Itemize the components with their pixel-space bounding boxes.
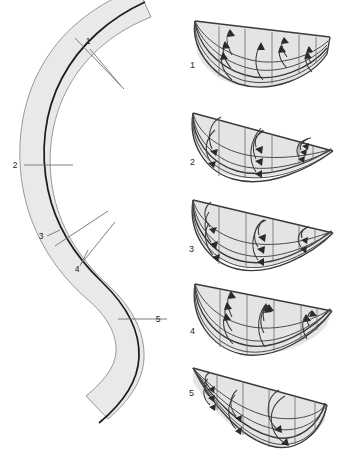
section-label-2: 2 — [190, 157, 195, 167]
cross-section-panel-3: 3 — [175, 190, 347, 282]
plan-label-2: 2 — [13, 160, 18, 170]
section-body-2 — [192, 113, 333, 182]
plan-label-3: 3 — [39, 231, 44, 241]
plan-label-1: 1 — [86, 36, 91, 46]
tick-line-4 — [81, 222, 115, 264]
section-label-3: 3 — [189, 244, 194, 254]
cross-section-panel-2: 2 — [175, 103, 347, 195]
section-body-1 — [194, 21, 330, 87]
meander-plan-view: 1 2 3 4 5 — [0, 0, 180, 460]
section-label-5: 5 — [189, 388, 194, 398]
cross-section-panel-4: 4 — [175, 273, 347, 365]
section-label-4: 4 — [190, 326, 195, 336]
leader-line-1 — [90, 49, 121, 86]
plan-label-5: 5 — [156, 314, 161, 324]
section-body-5 — [193, 368, 327, 447]
channel-belt-band — [20, 0, 151, 419]
plan-label-4: 4 — [75, 264, 80, 274]
section-label-1: 1 — [190, 60, 195, 70]
section-body-3 — [192, 200, 333, 271]
cross-section-panel-5: 5 — [175, 358, 347, 458]
section-body-4 — [194, 284, 332, 355]
figure-root: 1 2 3 4 5 — [0, 0, 347, 460]
cross-section-panel-1: 1 — [175, 8, 347, 100]
